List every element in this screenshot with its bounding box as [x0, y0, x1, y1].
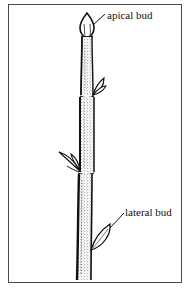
lateral-bud-label: lateral bud [125, 207, 172, 218]
lateral-bud-middle-icon [59, 152, 80, 172]
apical-bud-icon [80, 13, 94, 38]
lateral-bud-leader-line [110, 213, 124, 228]
stem-middle [80, 97, 94, 172]
apical-bud-label: apical bud [107, 10, 153, 21]
apical-bud-leader-line [93, 14, 105, 25]
lateral-bud-upper-icon [93, 78, 106, 95]
twig-drawing [0, 0, 188, 288]
lateral-bud-lower-icon [91, 224, 110, 250]
stem-upper [81, 37, 93, 95]
stem-lower [77, 174, 92, 280]
